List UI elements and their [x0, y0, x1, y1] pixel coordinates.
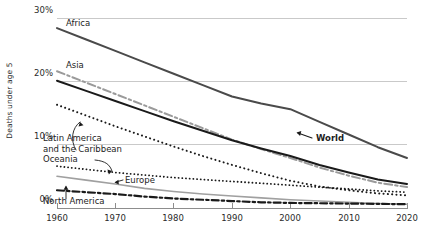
series-label-asia: Asia	[66, 60, 84, 71]
series-label-north-america: North America	[43, 196, 105, 207]
x-tick-label-2020: 2020	[396, 213, 418, 223]
x-tick-mark-2000	[290, 203, 291, 209]
x-tick-label-1980: 1980	[162, 213, 184, 223]
gridline-20	[57, 81, 407, 82]
x-tick-label-2010: 2010	[338, 213, 360, 223]
series-label-oceania: Oceania	[43, 154, 78, 165]
series-label-latin-america-line1: Latin America	[43, 133, 102, 144]
series-label-latin-america-line2: and the Caribbean	[43, 144, 122, 155]
chart-container: Deaths under age 5 30% 20% 10% 0% 1960 1…	[0, 0, 421, 231]
x-tick-mark-1990	[232, 203, 233, 209]
y-tick-label-30: 30%	[34, 5, 53, 15]
plot-area	[57, 18, 407, 208]
gridline-30	[57, 18, 407, 19]
x-tick-mark-2020	[407, 203, 408, 209]
x-tick-label-1960: 1960	[46, 213, 68, 223]
x-tick-label-1990: 1990	[221, 213, 243, 223]
series-label-africa: Africa	[66, 18, 90, 29]
series-label-europe: Europe	[125, 175, 155, 186]
x-tick-label-1970: 1970	[104, 213, 126, 223]
x-tick-mark-1970	[115, 203, 116, 209]
x-tick-mark-1980	[173, 203, 174, 209]
x-tick-label-2000: 2000	[279, 213, 301, 223]
series-label-world: World	[316, 133, 344, 144]
y-tick-label-20: 20%	[34, 68, 53, 78]
x-tick-mark-2010	[349, 203, 350, 209]
